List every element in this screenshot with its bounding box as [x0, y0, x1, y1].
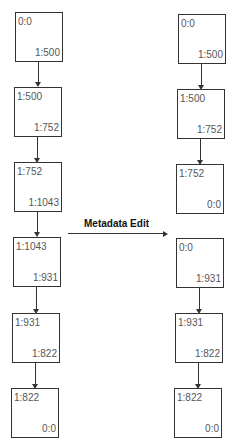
left-node-6: 1:822 0:0: [11, 388, 59, 438]
node-top-label: 1:500: [17, 91, 42, 102]
right-node-6: 1:822 0:0: [174, 388, 222, 438]
right-node-2: 1:500 1:752: [177, 89, 225, 139]
node-top-label: 1:931: [15, 317, 40, 328]
node-bottom-label: 1:500: [35, 47, 60, 58]
right-node-3: 1:752 0:0: [176, 164, 224, 214]
left-node-1: 0:0 1:500: [15, 12, 63, 62]
right-node-4: 0:0 1:931: [176, 238, 224, 288]
node-bottom-label: 1:752: [197, 124, 222, 135]
metadata-edit-label: Metadata Edit: [84, 218, 149, 229]
node-top-label: 0:0: [18, 16, 32, 27]
node-bottom-label: 0:0: [207, 199, 221, 210]
arrow-line: [200, 139, 201, 161]
node-bottom-label: 1:752: [34, 122, 59, 133]
arrow-right-icon: [163, 231, 168, 237]
node-bottom-label: 1:931: [33, 272, 58, 283]
node-top-label: 1:752: [17, 166, 42, 177]
node-top-label: 1:752: [179, 168, 204, 179]
arrow-line: [35, 363, 36, 385]
left-node-5: 1:931 1:822: [12, 313, 60, 363]
node-top-label: 0:0: [181, 18, 195, 29]
arrow-line: [37, 212, 38, 233]
transform-arrow-line: [68, 233, 164, 234]
arrow-line: [199, 288, 200, 310]
node-bottom-label: 1:822: [32, 348, 57, 359]
node-top-label: 1:1043: [16, 241, 47, 252]
node-bottom-label: 0:0: [205, 423, 219, 434]
left-node-2: 1:500 1:752: [14, 87, 62, 137]
node-top-label: 1:500: [180, 93, 205, 104]
left-node-4: 1:1043 1:931: [13, 237, 61, 287]
node-top-label: 1:822: [14, 392, 39, 403]
node-bottom-label: 0:0: [42, 423, 56, 434]
arrow-line: [38, 62, 39, 83]
node-bottom-label: 1:1043: [28, 197, 59, 208]
arrow-line: [37, 137, 38, 159]
node-top-label: 1:931: [178, 317, 203, 328]
arrow-line: [201, 64, 202, 86]
arrow-line: [198, 363, 199, 385]
node-top-label: 0:0: [179, 242, 193, 253]
right-node-1: 0:0 1:500: [178, 14, 226, 64]
right-node-5: 1:931 1:822: [175, 313, 223, 363]
node-bottom-label: 1:500: [198, 49, 223, 60]
node-bottom-label: 1:822: [195, 348, 220, 359]
node-bottom-label: 1:931: [196, 273, 221, 284]
left-node-3: 1:752 1:1043: [14, 162, 62, 212]
node-top-label: 1:822: [177, 392, 202, 403]
arrow-line: [36, 287, 37, 310]
